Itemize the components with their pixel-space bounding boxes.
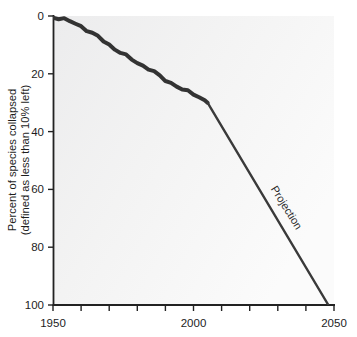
y-tick-label: 40 — [31, 126, 44, 138]
plot-background — [53, 16, 334, 305]
y-axis-title: Percent of species collapsed (defined as… — [6, 84, 31, 235]
x-axis-ticks: 195020002050 — [40, 305, 347, 329]
y-axis-title-line2: (defined as less than 10% left) — [19, 84, 31, 235]
chart-figure: 020406080100 195020002050 Projection Per… — [0, 0, 357, 337]
y-tick-label: 0 — [38, 10, 44, 22]
x-tick-label: 2050 — [321, 317, 347, 329]
y-axis-title-line1: Percent of species collapsed — [6, 89, 18, 231]
y-tick-label: 100 — [25, 299, 44, 311]
y-tick-label: 20 — [31, 68, 44, 80]
chart-canvas: 020406080100 195020002050 Projection Per… — [0, 0, 357, 337]
x-tick-label: 2000 — [181, 317, 207, 329]
y-tick-label: 80 — [31, 241, 44, 253]
x-tick-label: 1950 — [40, 317, 66, 329]
y-tick-label: 60 — [31, 183, 44, 195]
